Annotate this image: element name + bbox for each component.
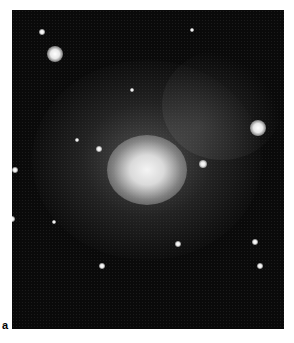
star <box>52 220 56 224</box>
star <box>130 88 134 92</box>
star <box>47 46 63 62</box>
star <box>12 167 18 173</box>
star <box>175 241 181 247</box>
star <box>99 263 105 269</box>
galaxy-core <box>107 135 187 205</box>
galaxy-arm <box>162 50 282 160</box>
star <box>257 263 263 269</box>
star <box>252 239 258 245</box>
star <box>39 29 45 35</box>
panel-label: a <box>2 319 8 331</box>
star <box>96 146 102 152</box>
star <box>250 120 266 136</box>
galaxy-image <box>12 10 284 329</box>
star <box>75 138 79 142</box>
star <box>199 160 207 168</box>
star <box>190 28 194 32</box>
